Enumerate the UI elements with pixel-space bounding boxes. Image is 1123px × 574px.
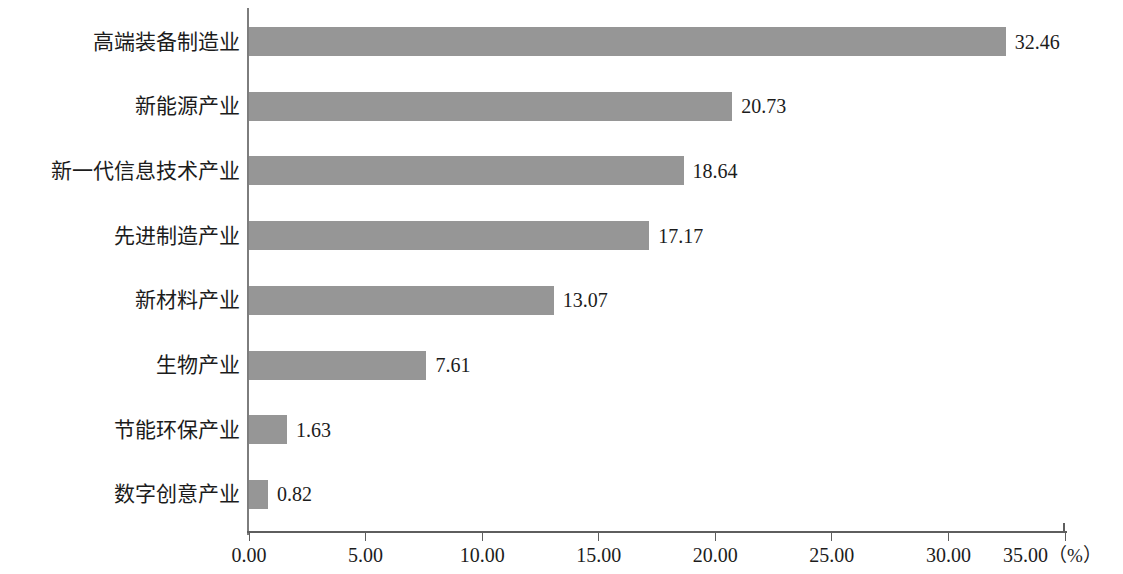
bar-row: 7.61: [249, 351, 1065, 380]
bar-row: 18.64: [249, 156, 1065, 185]
x-axis-tick-label: 25.00: [809, 545, 854, 565]
category-label: 高端装备制造业: [0, 31, 240, 52]
bar-row: 32.46: [249, 27, 1065, 56]
category-label: 新一代信息技术产业: [0, 160, 240, 181]
bar: [249, 480, 268, 509]
bar-row: 17.17: [249, 221, 1065, 250]
x-axis-tick: [598, 533, 599, 541]
bar: [249, 27, 1006, 56]
bar-row: 13.07: [249, 286, 1065, 315]
x-axis-tick: [1065, 533, 1066, 541]
bar-value-label: 17.17: [658, 226, 703, 246]
x-axis-tick: [948, 533, 949, 541]
category-label: 先进制造产业: [0, 225, 240, 246]
bar-chart: 0.005.0010.0015.0020.0025.0030.0035.00（%…: [0, 0, 1123, 574]
x-axis-tick-label: 30.00: [926, 545, 971, 565]
x-axis-tick-label: 20.00: [693, 545, 738, 565]
bar-row: 0.82: [249, 480, 1065, 509]
x-axis-tick-label: 10.00: [460, 545, 505, 565]
x-axis-end-cap: [1063, 523, 1065, 533]
x-axis-tick: [365, 533, 366, 541]
category-label: 数字创意产业: [0, 484, 240, 505]
y-axis-line: [247, 8, 249, 535]
x-axis-tick-label: 5.00: [348, 545, 383, 565]
bar: [249, 351, 426, 380]
bar: [249, 221, 649, 250]
x-axis-tick: [249, 533, 250, 541]
bar-value-label: 20.73: [741, 96, 786, 116]
bar-value-label: 18.64: [693, 161, 738, 181]
bar-value-label: 7.61: [435, 355, 470, 375]
bar-value-label: 1.63: [296, 420, 331, 440]
x-axis-tick: [715, 533, 716, 541]
x-axis-tick: [482, 533, 483, 541]
category-label: 节能环保产业: [0, 419, 240, 440]
x-axis-line: [247, 531, 1067, 533]
x-axis-tick-label: 35.00（%）: [1003, 545, 1102, 565]
bar-value-label: 0.82: [277, 484, 312, 504]
bar-value-label: 13.07: [563, 290, 608, 310]
bar: [249, 286, 554, 315]
x-axis-tick-label: 0.00: [232, 545, 267, 565]
bar: [249, 156, 684, 185]
bar-row: 20.73: [249, 92, 1065, 121]
bar-value-label: 32.46: [1015, 32, 1060, 52]
x-axis-tick-label: 15.00: [576, 545, 621, 565]
category-label: 新材料产业: [0, 290, 240, 311]
bar: [249, 92, 732, 121]
bar: [249, 415, 287, 444]
category-label: 生物产业: [0, 355, 240, 376]
bar-row: 1.63: [249, 415, 1065, 444]
x-axis-unit-label: （%）: [1048, 545, 1102, 566]
x-axis-tick: [831, 533, 832, 541]
category-label: 新能源产业: [0, 96, 240, 117]
